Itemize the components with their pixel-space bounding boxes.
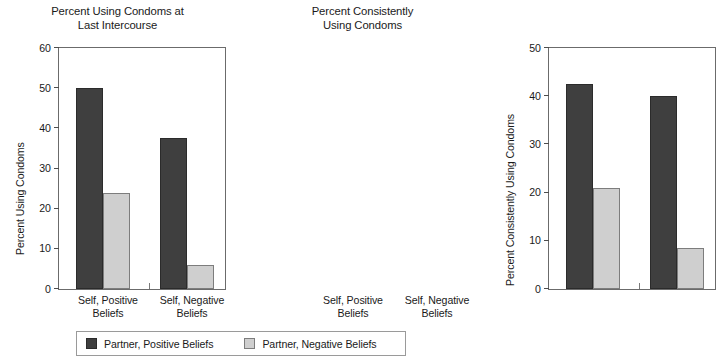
y-tick-mark <box>544 192 549 193</box>
legend-label-partner-negative: Partner, Negative Beliefs <box>262 338 376 350</box>
x-tick-label-right-0-line2: Beliefs <box>307 307 399 320</box>
chart-title-right-line1: Percent Consistently <box>312 5 414 17</box>
x-tick-label-right-1-line1: Self, Negative <box>405 294 470 306</box>
y-tick-mark <box>544 95 549 96</box>
x-tick-label-left-1-line2: Beliefs <box>146 307 238 320</box>
chart-legend: Partner, Positive Beliefs Partner, Negat… <box>76 331 406 356</box>
y-tick-label: 50 <box>529 41 541 55</box>
bar-0-1 <box>103 193 130 289</box>
x-tick-label-left-1: Self, Negative Beliefs <box>146 294 238 319</box>
group-separator-tick <box>639 283 640 289</box>
x-tick-label-left-0-line1: Self, Positive <box>78 294 138 306</box>
y-tick-label: 40 <box>529 89 541 103</box>
bar-1-0 <box>650 96 677 289</box>
bar-0-1 <box>593 188 620 289</box>
y-tick-label: 0 <box>45 282 51 296</box>
y-tick-mark <box>54 127 59 128</box>
y-tick-label: 40 <box>39 121 51 135</box>
group-separator-tick <box>149 283 150 289</box>
chart-title-left-line1: Percent Using Condoms at <box>51 5 184 17</box>
x-tick-label-right-1: Self, Negative Beliefs <box>391 294 483 319</box>
y-tick-mark <box>544 47 549 48</box>
x-tick-label-left-1-line1: Self, Negative <box>160 294 225 306</box>
y-tick-label: 30 <box>529 137 541 151</box>
bar-1-1 <box>677 248 704 289</box>
y-tick-mark <box>544 143 549 144</box>
x-tick-label-left-0: Self, Positive Beliefs <box>62 294 154 319</box>
chart-title-right: Percent Consistently Using Condoms <box>245 4 480 32</box>
chart-title-right-line2: Using Condoms <box>245 18 480 32</box>
y-axis-label-left: Percent Using Condoms <box>14 142 26 255</box>
chart-title-left: Percent Using Condoms at Last Intercours… <box>0 4 235 32</box>
y-tick-label: 10 <box>39 241 51 255</box>
y-tick-mark <box>54 87 59 88</box>
y-tick-mark <box>54 248 59 249</box>
x-tick-label-right-0: Self, Positive Beliefs <box>307 294 399 319</box>
chart-panel-right: Percent Consistently Using Condoms Perce… <box>245 0 480 320</box>
y-tick-label: 50 <box>39 81 51 95</box>
x-tick-label-left-0-line2: Beliefs <box>62 307 154 320</box>
y-tick-mark <box>544 288 549 289</box>
bar-1-1 <box>187 265 214 289</box>
y-tick-mark <box>54 168 59 169</box>
legend-swatch-light-icon <box>244 338 255 349</box>
bar-0-0 <box>566 84 593 289</box>
x-tick-label-right-1-line2: Beliefs <box>391 307 483 320</box>
y-tick-label: 0 <box>535 282 541 296</box>
legend-item-partner-negative: Partner, Negative Beliefs <box>244 338 376 350</box>
y-tick-mark <box>54 208 59 209</box>
chart-title-left-line2: Last Intercourse <box>0 18 235 32</box>
y-tick-mark <box>54 288 59 289</box>
legend-label-partner-positive: Partner, Positive Beliefs <box>104 338 213 350</box>
legend-swatch-dark-icon <box>86 338 97 349</box>
y-tick-label: 10 <box>529 233 541 247</box>
bar-1-0 <box>160 138 187 289</box>
y-tick-mark <box>54 47 59 48</box>
y-tick-mark <box>544 240 549 241</box>
y-tick-label: 20 <box>39 201 51 215</box>
y-axis-label-right: Percent Consistently Using Condoms <box>504 114 516 286</box>
x-tick-label-right-0-line1: Self, Positive <box>323 294 383 306</box>
y-tick-label: 60 <box>39 41 51 55</box>
y-tick-label: 20 <box>529 185 541 199</box>
plot-area-right: 01020304050 <box>548 47 716 290</box>
bar-0-0 <box>76 88 103 289</box>
y-tick-label: 30 <box>39 161 51 175</box>
plot-area-left: 0102030405060 <box>58 47 226 290</box>
legend-item-partner-positive: Partner, Positive Beliefs <box>86 338 213 350</box>
chart-panel-left: Percent Using Condoms at Last Intercours… <box>0 0 235 320</box>
